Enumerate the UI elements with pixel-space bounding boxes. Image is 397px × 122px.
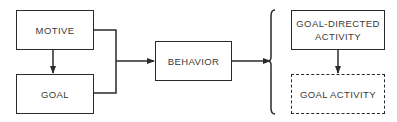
- node-goal-activity-label: GOAL ACTIVITY: [300, 88, 376, 101]
- node-motive: MOTIVE: [16, 10, 94, 50]
- node-goal-directed-activity: GOAL-DIRECTED ACTIVITY: [291, 10, 385, 50]
- node-goal: GOAL: [16, 74, 94, 114]
- left-brace-icon: [268, 10, 275, 114]
- node-behavior: BEHAVIOR: [155, 41, 232, 81]
- node-motive-label: MOTIVE: [36, 24, 75, 37]
- connector-motive-goal-merge: [94, 30, 116, 93]
- node-gda-label-line1: GOAL-DIRECTED: [296, 17, 379, 30]
- node-goal-activity: GOAL ACTIVITY: [291, 74, 385, 114]
- node-gda-label-line2: ACTIVITY: [315, 30, 361, 43]
- node-behavior-label: BEHAVIOR: [168, 55, 220, 68]
- node-goal-label: GOAL: [41, 88, 69, 101]
